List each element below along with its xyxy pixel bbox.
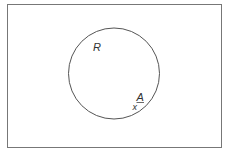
venn-diagram: R A x [0, 0, 228, 151]
point-a-marker: x [132, 102, 138, 112]
set-r-circle [69, 28, 160, 119]
universal-set-frame [8, 5, 222, 148]
set-r-label: R [93, 41, 101, 53]
